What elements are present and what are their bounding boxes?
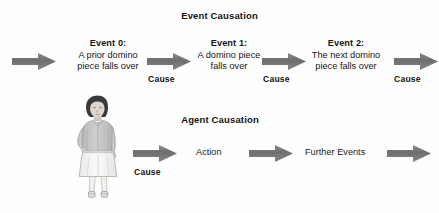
arrow-out-of-event-2 <box>394 52 438 71</box>
cause-label-agent: Cause <box>134 167 161 177</box>
event-0-block: Event 0: A prior domino piece falls over <box>60 38 156 73</box>
event-2-line-1: The next domino <box>296 50 396 62</box>
event-2-line-2: piece falls over <box>296 61 396 73</box>
event-0-line-1: A prior domino <box>60 50 156 62</box>
agent-node-further-events: Further Events <box>305 147 365 157</box>
standing-person-figure-icon <box>66 95 126 200</box>
diagram-canvas: Event Causation Event 0: A prior domino … <box>0 0 439 213</box>
agent-causation-title: Agent Causation <box>120 114 320 125</box>
event-1-heading: Event 1: <box>181 38 277 50</box>
cause-label-1: Cause <box>148 74 175 84</box>
agent-node-action: Action <box>196 147 222 157</box>
event-0-heading: Event 0: <box>60 38 156 50</box>
event-2-heading: Event 2: <box>296 38 396 50</box>
arrow-into-event-0 <box>12 52 56 71</box>
arrow-action-to-further-events <box>249 144 293 163</box>
cause-label-2: Cause <box>263 74 290 84</box>
event-causation-title: Event Causation <box>0 10 439 21</box>
event-2-block: Event 2: The next domino piece falls ove… <box>296 38 396 73</box>
arrow-out-of-further-events <box>387 144 431 163</box>
arrow-agent-to-action <box>133 144 177 163</box>
cause-label-3: Cause <box>394 74 421 84</box>
event-0-line-2: piece falls over <box>60 61 156 73</box>
